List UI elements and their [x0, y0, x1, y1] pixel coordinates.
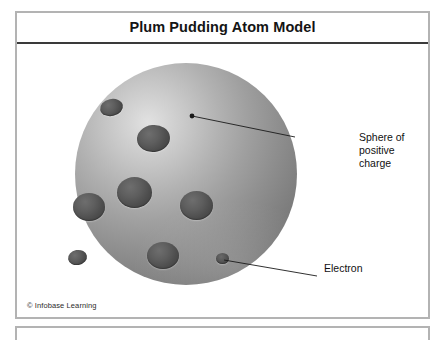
callout-electron: Electron	[324, 262, 363, 275]
callout-sphere-of-positive-charge: Sphere of positive charge	[359, 131, 405, 170]
electron-6	[66, 248, 87, 266]
electron-4	[73, 193, 105, 221]
figure-frame: Plum Pudding Atom Model Sphere of positi…	[15, 11, 430, 319]
copyright-notice: © Infobase Learning	[27, 301, 97, 310]
diagram-canvas: Sphere of positive charge Electron © Inf…	[17, 44, 428, 317]
electron-8	[216, 253, 229, 264]
electron-7	[147, 242, 179, 269]
page-title: Plum Pudding Atom Model	[129, 20, 315, 35]
positive-charge-sphere	[75, 63, 297, 285]
figure-title-bar: Plum Pudding Atom Model	[17, 13, 428, 44]
electron-3	[117, 177, 152, 208]
next-figure-panel	[15, 326, 430, 340]
electron-5	[180, 191, 213, 220]
